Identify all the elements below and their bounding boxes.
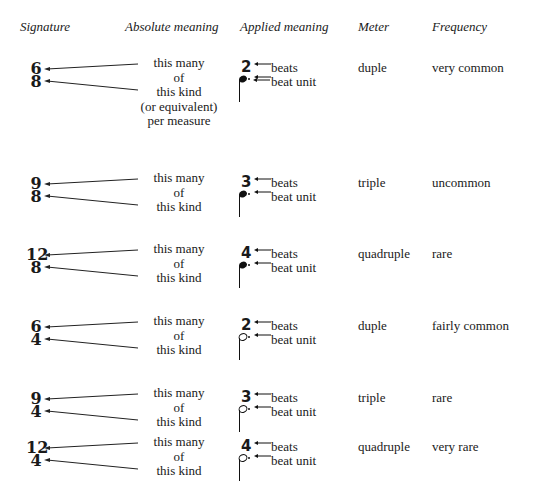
table-row: 6 4 this many of this kind 2 beats beat … — [0, 320, 534, 390]
table-row: 6 8 this many of this kind (or equivalen… — [0, 62, 534, 132]
applied-meaning: 4 beats beat unit — [238, 248, 348, 308]
header-meter: Meter — [358, 19, 389, 35]
arrow-icon — [253, 316, 273, 346]
absolute-meaning: this many of this kind (or equivalent) p… — [134, 56, 224, 129]
time-signature: 9 8 — [26, 177, 46, 203]
table-row: 12 4 this many of this kind 4 beats beat… — [0, 441, 534, 485]
table-row: 9 8 this many of this kind 3 beats beat … — [0, 177, 534, 247]
frequency: very rare — [432, 439, 479, 455]
applied-meaning: 3 beats beat unit — [238, 177, 348, 237]
absolute-meaning: this many of this kind — [134, 386, 224, 430]
meter: triple — [358, 390, 385, 406]
frequency: rare — [432, 246, 452, 262]
header-frequency: Frequency — [432, 19, 487, 35]
time-signature: 6 8 — [26, 62, 46, 88]
applied-meaning: 2 beats beat unit — [238, 320, 348, 380]
header-signature: Signature — [20, 19, 70, 35]
meter: quadruple — [358, 246, 410, 262]
table-row: 12 8 this many of this kind 4 beats beat… — [0, 248, 534, 318]
meter: duple — [358, 60, 387, 76]
arrow-icon — [253, 173, 273, 203]
header-applied-meaning: Applied meaning — [240, 19, 328, 35]
meter: quadruple — [358, 439, 410, 455]
arrow-icon — [253, 244, 273, 274]
time-signature: 12 8 — [26, 248, 46, 274]
meter: duple — [358, 318, 387, 334]
absolute-meaning: this many of this kind — [134, 171, 224, 215]
absolute-meaning: this many of this kind — [134, 435, 224, 479]
arrow-icon — [253, 58, 273, 88]
absolute-meaning: this many of this kind — [134, 314, 224, 358]
time-signature: 12 4 — [26, 441, 46, 467]
arrow-icon — [253, 437, 273, 467]
time-signature: 6 4 — [26, 320, 46, 346]
absolute-meaning: this many of this kind — [134, 242, 224, 286]
frequency: very common — [432, 60, 504, 76]
arrow-icon — [253, 388, 273, 418]
frequency: rare — [432, 390, 452, 406]
meter: triple — [358, 175, 385, 191]
frequency: uncommon — [432, 175, 491, 191]
applied-meaning: 2 beats beat unit — [238, 62, 348, 122]
time-signature: 9 4 — [26, 392, 46, 418]
header-absolute-meaning: Absolute meaning — [125, 19, 219, 35]
applied-meaning: 4 beats beat unit — [238, 441, 348, 485]
frequency: fairly common — [432, 318, 509, 334]
